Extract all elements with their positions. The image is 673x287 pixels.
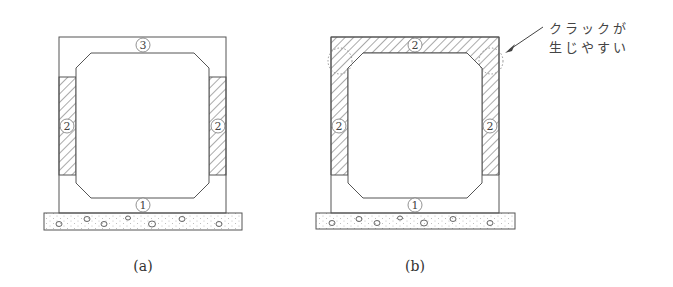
svg-text:2: 2 [336,120,343,133]
label-top-a: 3 [136,38,150,52]
label-left-b: 2 [332,119,346,133]
svg-text:2: 2 [64,120,71,133]
svg-text:1: 1 [412,199,419,212]
label-right-b: 2 [483,119,497,133]
crack-annotation-line2: 生じやすい [549,40,629,55]
box-culvert-b: 2 2 2 1 クラックが 生じやすい (b) [316,21,629,274]
box-culvert-a: 3 2 2 1 (a) [44,37,242,274]
base-slab-a [44,213,242,230]
diagram-canvas: 3 2 2 1 (a) [0,0,673,287]
svg-text:1: 1 [140,199,147,212]
label-top-b: 2 [408,38,422,52]
crack-annotation-arrow-icon [505,27,543,53]
crack-annotation-line1: クラックが [549,21,629,36]
label-bottom-a: 1 [136,198,150,212]
label-bottom-b: 1 [408,198,422,212]
svg-text:2: 2 [215,120,222,133]
label-right-a: 2 [211,119,225,133]
label-left-a: 2 [60,119,74,133]
inner-opening-a [76,53,209,198]
svg-text:2: 2 [487,120,494,133]
inner-opening-b [348,53,482,198]
base-slab-b [316,213,515,229]
caption-b: (b) [405,258,425,274]
svg-text:2: 2 [412,39,419,52]
caption-a: (a) [133,258,152,274]
svg-text:3: 3 [140,39,147,52]
